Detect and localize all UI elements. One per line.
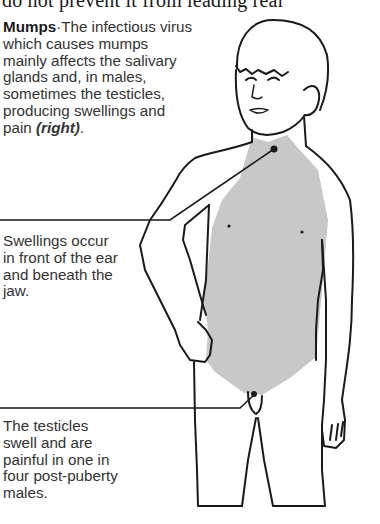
shaded-torso <box>204 135 328 395</box>
jaw-leader-dot <box>271 146 278 153</box>
hair-fringe <box>236 66 288 76</box>
right-hand <box>322 400 345 448</box>
nose <box>252 85 262 99</box>
left-eye <box>246 78 256 80</box>
right-nipple <box>300 230 303 233</box>
mouth <box>250 109 268 114</box>
head-outline <box>237 20 328 110</box>
boy-illustration <box>0 0 380 524</box>
neck-right <box>304 116 306 146</box>
testicle-leader-line <box>0 395 254 408</box>
left-leg-inner <box>242 418 256 506</box>
left-nipple <box>227 224 230 227</box>
right-leg-inner <box>258 418 325 506</box>
left-arm-outer <box>140 220 212 362</box>
ear <box>304 86 319 115</box>
testicle-leader-dot <box>251 391 257 397</box>
right-eye <box>268 78 279 80</box>
